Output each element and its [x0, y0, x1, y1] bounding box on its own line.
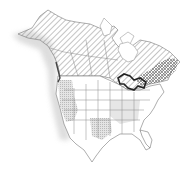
range-map	[0, 0, 188, 171]
north-america-map	[0, 0, 188, 171]
